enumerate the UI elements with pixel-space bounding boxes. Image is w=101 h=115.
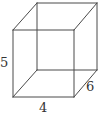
prism-diagram: 5 4 6 — [0, 0, 101, 115]
edge-top-right-depth — [74, 3, 97, 30]
height-label: 5 — [0, 55, 8, 70]
edge-bottom-left-depth — [13, 70, 37, 97]
width-label: 4 — [39, 100, 47, 115]
depth-label: 6 — [86, 79, 94, 94]
edge-top-left-depth — [13, 3, 37, 30]
